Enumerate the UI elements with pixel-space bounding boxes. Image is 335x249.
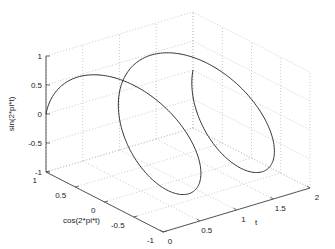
svg-text:0: 0 [91, 206, 96, 215]
svg-text:0.5: 0.5 [201, 226, 213, 235]
svg-text:0.5: 0.5 [31, 81, 43, 90]
svg-text:1: 1 [38, 52, 43, 61]
svg-text:-0.5: -0.5 [111, 221, 125, 230]
svg-text:-0.5: -0.5 [28, 139, 42, 148]
y-axis-label: cos(2*pi*t) [63, 216, 100, 225]
svg-text:-1: -1 [147, 236, 155, 245]
svg-text:2: 2 [315, 193, 320, 202]
axes [46, 56, 310, 232]
z-axis-label: sin(2*pi*t) [7, 96, 16, 131]
svg-text:0: 0 [38, 110, 43, 119]
svg-text:1: 1 [33, 176, 38, 185]
svg-text:1.5: 1.5 [275, 204, 287, 213]
helix-curve [46, 53, 274, 195]
x-axis-label: t [255, 218, 258, 227]
svg-text:0: 0 [168, 237, 173, 246]
svg-text:0.5: 0.5 [55, 191, 67, 200]
helix-3d-plot: 10.50-0.5-110.50-0.5-100.511.52 sin(2*pi… [0, 0, 335, 249]
svg-text:1: 1 [241, 215, 246, 224]
